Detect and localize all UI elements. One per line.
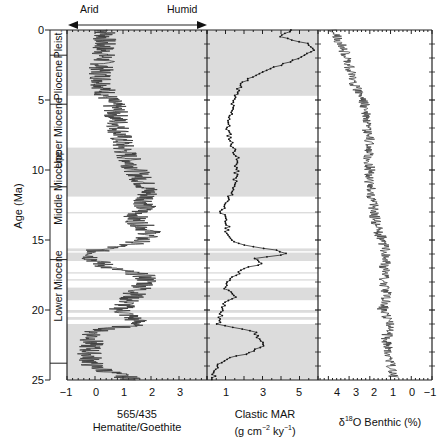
y-tick-10: 10 <box>20 164 44 176</box>
p1-tick: 2 <box>140 386 164 398</box>
p3-sup: 18 <box>345 415 353 422</box>
shaded-interval <box>67 288 318 301</box>
shaded-interval <box>67 279 318 280</box>
y-tick-20: 20 <box>20 304 44 316</box>
epoch-lower-miocene: Lower Miocene <box>52 246 66 326</box>
p2-axis-title: Clastic MAR (g cm−2 ky−1) <box>220 408 310 438</box>
shaded-interval <box>67 272 318 273</box>
figure: Arid Humid 0 5 10 15 20 25 Age (Ma) Plei… <box>0 0 447 439</box>
shaded-interval <box>67 310 318 313</box>
p2-unit-sup1: −2 <box>262 424 270 431</box>
p2-tick: 3 <box>251 386 275 398</box>
p1-axis-title: 565/435 Hematite/Goethite <box>92 408 182 434</box>
y-tick-5: 5 <box>20 94 44 106</box>
shaded-interval <box>67 212 318 213</box>
shaded-interval <box>67 317 318 320</box>
p1-axis-title-line1: 565/435 <box>92 408 182 421</box>
y-tick-25: 25 <box>20 374 44 386</box>
p2-axis-title-line1: Clastic MAR <box>220 408 310 421</box>
p2-unit-c: ) <box>292 425 296 437</box>
p3-tick: −1 <box>418 386 442 398</box>
p1-tick: 3 <box>168 386 192 398</box>
p3-axis-title: δ18O Benthic (%) <box>330 412 430 429</box>
humid-label: Humid <box>167 3 197 15</box>
y-tick-15: 15 <box>20 234 44 246</box>
p2-tick: 1 <box>214 386 238 398</box>
p2-axis-title-line2: (g cm−2 ky−1) <box>220 421 310 438</box>
arrow-right-icon <box>197 21 207 29</box>
p2-unit-a: (g cm <box>234 425 262 437</box>
shaded-interval <box>67 253 318 261</box>
p1-axis-title-line2: Hematite/Goethite <box>92 421 182 434</box>
p3-title-rest: O Benthic (%) <box>353 416 421 428</box>
d18o-benthic-line <box>328 30 399 377</box>
arid-label: Arid <box>80 3 99 15</box>
shaded-interval <box>67 148 318 197</box>
p1-tick: −1 <box>54 386 78 398</box>
epoch-middle-miocene: Middle Miocene <box>52 148 66 228</box>
y-tick-0: 0 <box>20 24 44 36</box>
y-axis-title: Age (Ma) <box>12 183 24 228</box>
p2-unit-b: ky <box>270 425 284 437</box>
arrow-left-icon <box>68 21 78 29</box>
p1-tick: 1 <box>112 386 136 398</box>
p2-unit-sup2: −1 <box>284 424 292 431</box>
p2-tick: 5 <box>287 386 311 398</box>
plot-area <box>0 0 447 439</box>
p1-tick: 0 <box>84 386 108 398</box>
